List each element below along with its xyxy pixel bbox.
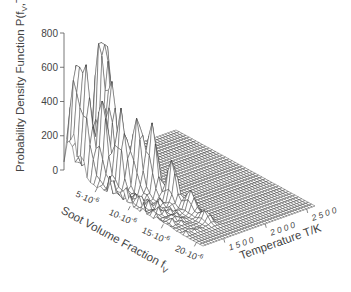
z-tick-label: 600	[41, 62, 58, 73]
svg-text:2 5 0 0: 2 5 0 0	[309, 205, 338, 223]
temperature-tick	[265, 224, 266, 228]
z-tick-label: 400	[41, 96, 58, 107]
z-tick-label: 200	[41, 130, 58, 141]
temperature-tick	[307, 209, 308, 213]
z-tick-label: 800	[41, 28, 58, 39]
svg-text:15·10-6: 15·10-6	[140, 223, 172, 246]
fv-tick-label: 5·10-6	[74, 187, 101, 208]
temperature-tick	[224, 239, 225, 243]
temperature-tick-label: 2 5 0 0	[309, 205, 338, 223]
z-axis-title: Probability Density Function P(fV,T)	[14, 0, 29, 172]
fv-tick-label: 10·10-6	[107, 205, 139, 228]
fv-tick-label: 15·10-6	[140, 223, 172, 246]
z-axis: 0200400600800	[41, 28, 64, 176]
chart-root: 0200400600800 5·10-610·10-615·10-620·10-…	[0, 0, 351, 292]
z-tick-label: 0	[52, 165, 58, 176]
svg-text:5·10-6: 5·10-6	[74, 187, 101, 208]
wireframe-surface	[64, 43, 315, 246]
fv-tick	[161, 224, 163, 228]
fv-tick	[128, 206, 130, 210]
fv-tick	[95, 188, 97, 192]
svg-text:10·10-6: 10·10-6	[107, 205, 139, 228]
fv-tick	[194, 242, 196, 246]
surface-plot: 0200400600800 5·10-610·10-615·10-620·10-…	[0, 0, 351, 292]
